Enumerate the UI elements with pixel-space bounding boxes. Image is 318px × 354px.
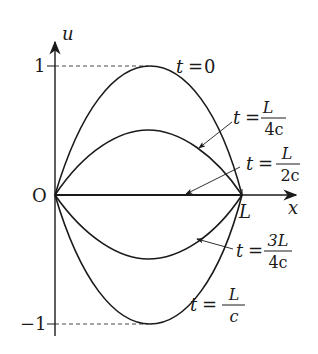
svg-text:L: L: [262, 98, 274, 117]
svg-text:t: t: [246, 153, 254, 174]
x-axis-label: x: [288, 197, 298, 218]
svg-text:t: t: [236, 240, 244, 261]
svg-text:=: =: [258, 153, 273, 174]
curve-t3L4c: [55, 195, 242, 259]
svg-text:4c: 4c: [264, 120, 283, 139]
label-tL2c: t = L 2c: [246, 144, 300, 185]
x-tick-L-label: L: [238, 201, 251, 222]
svg-text:t: t: [233, 107, 241, 128]
svg-text:0: 0: [204, 56, 215, 77]
svg-text:=: =: [188, 56, 203, 77]
svg-text:2c: 2c: [280, 166, 299, 185]
svg-text:=: =: [245, 107, 260, 128]
pointer-L4c: [199, 122, 232, 148]
svg-text:4c: 4c: [268, 253, 287, 272]
origin-label: O: [32, 185, 47, 206]
y-tick-neg1-label: −1: [20, 313, 47, 334]
svg-text:=: =: [248, 240, 263, 261]
svg-text:c: c: [230, 307, 239, 326]
svg-text:3L: 3L: [268, 231, 289, 250]
u-axis-label: u: [62, 23, 74, 44]
wave-diagram: u x O L 1 −1 t = 0 t = L 4c t = L 2c t =…: [0, 0, 318, 354]
y-tick-1-label: 1: [34, 55, 45, 76]
curve-tL4c: [55, 130, 242, 195]
svg-text:t: t: [176, 56, 184, 77]
label-tLc: t = L c: [190, 285, 245, 326]
svg-text:L: L: [281, 144, 293, 163]
svg-text:t: t: [190, 294, 198, 315]
label-t0: t = 0: [176, 56, 215, 77]
svg-text:L: L: [228, 285, 240, 304]
svg-text:=: =: [202, 294, 217, 315]
label-tL4c: t = L 4c: [233, 98, 286, 139]
label-t3L4c: t = 3L 4c: [236, 231, 292, 272]
